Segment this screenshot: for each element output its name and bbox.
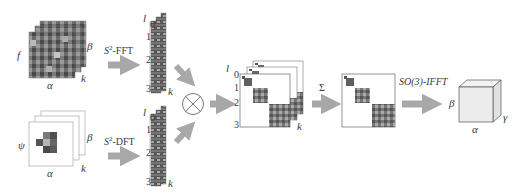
- filter-degree-tick-3: 3: [146, 177, 151, 187]
- signal-beta-label: β: [87, 41, 92, 52]
- filter-k-label: k: [81, 163, 86, 174]
- filter-degree-tick-1: 1: [146, 125, 151, 135]
- block-degree-label: l: [226, 63, 229, 74]
- block-degree-tick-2: 2: [234, 98, 239, 108]
- ifft-label: SO(3)-IFFT: [399, 77, 447, 87]
- signal-symbol: f: [17, 50, 20, 61]
- block-k-label: k: [297, 121, 302, 132]
- signal-degree-tick-3: 3: [146, 84, 151, 94]
- block-degree-tick-1: 1: [234, 83, 239, 93]
- filter-degree-tick-2: 2: [146, 148, 151, 158]
- outer-product-operator-icon: [183, 94, 204, 115]
- signal-to-product-arrow: [176, 66, 189, 80]
- block-diagonal-stack: [240, 61, 303, 127]
- filter-beta-label: β: [87, 132, 92, 143]
- filter-to-product-arrow: [176, 128, 189, 142]
- filter-psi-grid: [29, 111, 85, 166]
- sum-label: Σ: [319, 83, 325, 93]
- output-gamma-label: γ: [503, 112, 507, 123]
- signal-column-k-label: k: [168, 86, 173, 97]
- output-alpha-label: α: [472, 124, 478, 135]
- block-degree-tick-0: 0: [234, 70, 239, 80]
- filter-column-k-label: k: [168, 178, 173, 189]
- summed-block-matrix: [342, 74, 395, 127]
- signal-degree-label: l: [143, 13, 146, 24]
- signal-degree-tick-1: 1: [146, 32, 151, 42]
- signal-degree-tick-0: 0: [150, 20, 155, 30]
- input-signal-f-grid: [29, 21, 86, 78]
- dft-label: S2-DFT: [104, 136, 135, 147]
- fft-label: S2-FFT: [104, 45, 133, 56]
- filter-symbol: ψ: [18, 140, 25, 151]
- output-beta-label: β: [449, 98, 454, 109]
- signal-k-label: k: [81, 73, 86, 84]
- filter-degree-label: l: [143, 107, 146, 118]
- filter-degree-tick-0: 0: [150, 113, 155, 123]
- filter-alpha-label: α: [47, 168, 53, 179]
- signal-degree-tick-2: 2: [146, 55, 151, 65]
- pipeline-diagram: [0, 0, 514, 196]
- output-cube: [459, 80, 501, 122]
- block-degree-tick-3: 3: [234, 120, 239, 130]
- signal-alpha-label: α: [47, 80, 53, 91]
